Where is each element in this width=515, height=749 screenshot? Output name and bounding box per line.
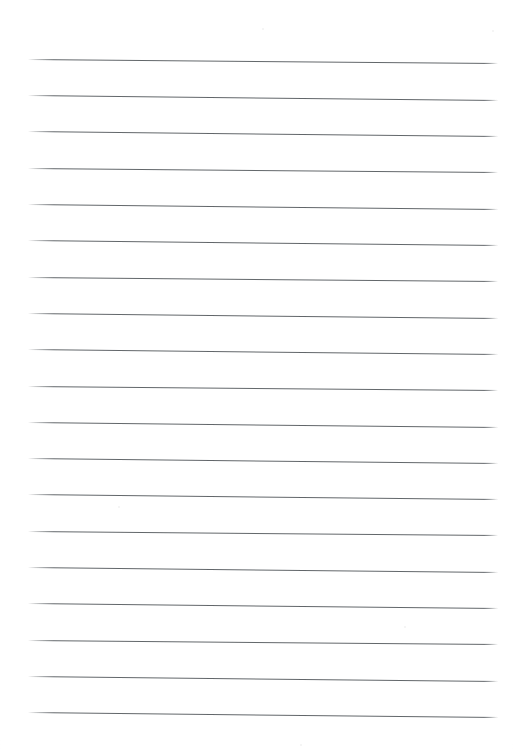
- rule-line-1: [28, 59, 498, 64]
- rule-line-2: [28, 95, 498, 101]
- rule-line-7: [28, 277, 498, 282]
- rule-line-16: [28, 603, 498, 609]
- ruled-lines-layer: [0, 0, 515, 749]
- scanned-page: [0, 0, 515, 749]
- rule-line-15: [28, 567, 498, 573]
- rule-line-3: [28, 131, 498, 137]
- rule-line-12: [28, 458, 498, 464]
- rule-line-14: [28, 531, 498, 536]
- rule-line-5: [28, 204, 498, 210]
- rule-line-17: [28, 640, 498, 645]
- rule-line-19: [28, 712, 498, 718]
- rule-line-8: [28, 313, 498, 319]
- rule-line-4: [28, 168, 498, 173]
- rule-line-13: [28, 494, 498, 500]
- rule-line-11: [28, 422, 498, 428]
- rule-line-18: [28, 676, 498, 682]
- rule-line-9: [28, 349, 498, 355]
- rule-line-10: [28, 386, 498, 391]
- rule-line-6: [28, 240, 498, 246]
